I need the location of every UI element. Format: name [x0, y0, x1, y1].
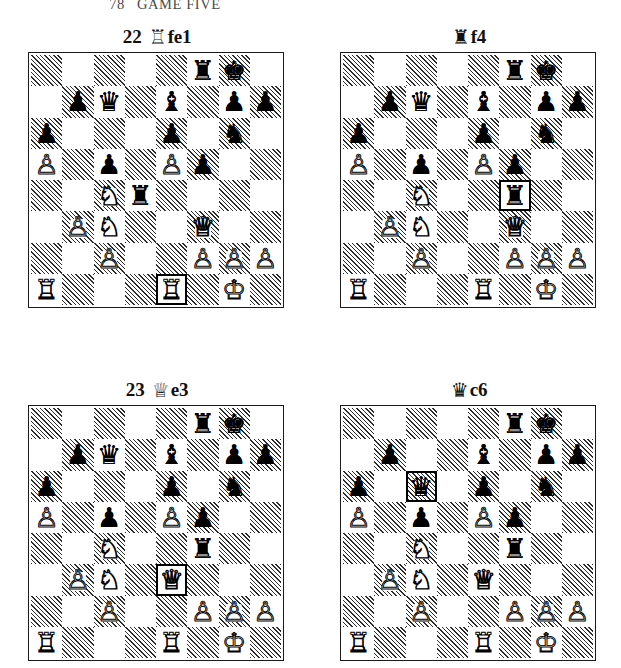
board-square-b8[interactable]: [62, 55, 93, 86]
board-square-e5[interactable]: ♙: [468, 502, 499, 533]
board-square-d2[interactable]: [437, 243, 468, 274]
board-square-c5[interactable]: ♟: [406, 502, 437, 533]
board-square-g4[interactable]: [219, 533, 250, 564]
board-square-g2[interactable]: ♙: [219, 243, 250, 274]
board-square-d7[interactable]: [437, 86, 468, 117]
board-square-b3[interactable]: ♙: [62, 211, 93, 242]
board-square-c2[interactable]: ♙: [94, 596, 125, 627]
board-square-g6[interactable]: ♞: [219, 471, 250, 502]
board-square-g6[interactable]: ♞: [531, 118, 562, 149]
board-square-f5[interactable]: ♟: [499, 502, 530, 533]
board-square-a2[interactable]: [343, 243, 374, 274]
board-square-d8[interactable]: [437, 408, 468, 439]
board-square-f3[interactable]: [499, 564, 530, 595]
board-square-c4[interactable]: ♘: [406, 180, 437, 211]
board-square-e8[interactable]: [156, 55, 187, 86]
board-square-f6[interactable]: [499, 471, 530, 502]
board-square-d5[interactable]: [437, 502, 468, 533]
board-square-e4[interactable]: [156, 533, 187, 564]
board-square-c3[interactable]: ♘: [406, 564, 437, 595]
board-square-e8[interactable]: [156, 408, 187, 439]
board-square-f1[interactable]: [499, 274, 530, 305]
board-square-d4[interactable]: ♜: [125, 180, 156, 211]
board-square-d1[interactable]: [437, 274, 468, 305]
board-square-g4[interactable]: [531, 533, 562, 564]
board-square-f4[interactable]: ♜: [499, 180, 530, 211]
board-square-a8[interactable]: [31, 408, 62, 439]
board-square-h1[interactable]: [250, 274, 281, 305]
board-square-b2[interactable]: [62, 596, 93, 627]
board-square-a4[interactable]: [31, 533, 62, 564]
board-square-d6[interactable]: [125, 118, 156, 149]
board-square-b5[interactable]: [374, 502, 405, 533]
board-square-h6[interactable]: [562, 471, 593, 502]
board-square-c1[interactable]: [94, 627, 125, 658]
board-square-b3[interactable]: ♙: [62, 564, 93, 595]
board-square-d7[interactable]: [125, 86, 156, 117]
board-square-d8[interactable]: [125, 55, 156, 86]
board-square-h3[interactable]: [562, 211, 593, 242]
board-square-b3[interactable]: ♙: [374, 564, 405, 595]
board-square-g2[interactable]: ♙: [219, 596, 250, 627]
board-square-c1[interactable]: [406, 274, 437, 305]
board-square-b8[interactable]: [62, 408, 93, 439]
board-square-a8[interactable]: [343, 55, 374, 86]
board-square-f1[interactable]: [187, 274, 218, 305]
board-square-c8[interactable]: [94, 55, 125, 86]
board-square-h3[interactable]: [250, 564, 281, 595]
board-square-h5[interactable]: [562, 502, 593, 533]
board-square-f8[interactable]: ♜: [499, 408, 530, 439]
board-square-g5[interactable]: [219, 149, 250, 180]
board-square-c7[interactable]: ♛: [94, 86, 125, 117]
board-square-d3[interactable]: [125, 564, 156, 595]
board-square-h5[interactable]: [562, 149, 593, 180]
board-square-g5[interactable]: [219, 502, 250, 533]
board-square-a3[interactable]: [31, 564, 62, 595]
board-square-f1[interactable]: [187, 627, 218, 658]
board-square-d8[interactable]: [125, 408, 156, 439]
board-square-f2[interactable]: ♙: [499, 243, 530, 274]
board-square-a7[interactable]: [31, 439, 62, 470]
board-square-e3[interactable]: [468, 211, 499, 242]
board-square-e7[interactable]: ♝: [468, 439, 499, 470]
board-square-a7[interactable]: [31, 86, 62, 117]
board-square-f7[interactable]: [499, 86, 530, 117]
board-square-g1[interactable]: ♔: [219, 627, 250, 658]
board-square-d2[interactable]: [125, 243, 156, 274]
board-square-d4[interactable]: [437, 533, 468, 564]
board-square-b6[interactable]: [62, 471, 93, 502]
board-square-h6[interactable]: [250, 471, 281, 502]
board-square-c5[interactable]: ♟: [94, 502, 125, 533]
board-square-a3[interactable]: [31, 211, 62, 242]
board-square-e7[interactable]: ♝: [156, 439, 187, 470]
board-square-f2[interactable]: ♙: [187, 596, 218, 627]
board-square-b1[interactable]: [62, 274, 93, 305]
board-square-a1[interactable]: ♖: [31, 627, 62, 658]
board-square-b3[interactable]: ♙: [374, 211, 405, 242]
board-square-g1[interactable]: ♔: [531, 274, 562, 305]
board-square-b6[interactable]: [374, 471, 405, 502]
board-square-a1[interactable]: ♖: [343, 274, 374, 305]
board-square-f1[interactable]: [499, 627, 530, 658]
board-square-e7[interactable]: ♝: [468, 86, 499, 117]
board-square-h5[interactable]: [250, 149, 281, 180]
board-square-b5[interactable]: [374, 149, 405, 180]
board-square-e8[interactable]: [468, 55, 499, 86]
board-square-e2[interactable]: [468, 596, 499, 627]
board-square-a4[interactable]: [343, 533, 374, 564]
board-square-c3[interactable]: ♘: [94, 211, 125, 242]
board-square-g7[interactable]: ♟: [219, 86, 250, 117]
board-square-f4[interactable]: ♜: [187, 533, 218, 564]
board-square-c6[interactable]: [94, 471, 125, 502]
board-square-g3[interactable]: [531, 564, 562, 595]
board-square-d6[interactable]: [437, 118, 468, 149]
board-square-d7[interactable]: [125, 439, 156, 470]
board-square-g6[interactable]: ♞: [531, 471, 562, 502]
board-square-h4[interactable]: [562, 180, 593, 211]
board-square-h4[interactable]: [250, 180, 281, 211]
board-square-g1[interactable]: ♔: [219, 274, 250, 305]
board-square-e4[interactable]: [468, 533, 499, 564]
board-square-h2[interactable]: ♙: [562, 243, 593, 274]
board-square-g8[interactable]: ♚: [531, 55, 562, 86]
board-square-a5[interactable]: ♙: [343, 502, 374, 533]
